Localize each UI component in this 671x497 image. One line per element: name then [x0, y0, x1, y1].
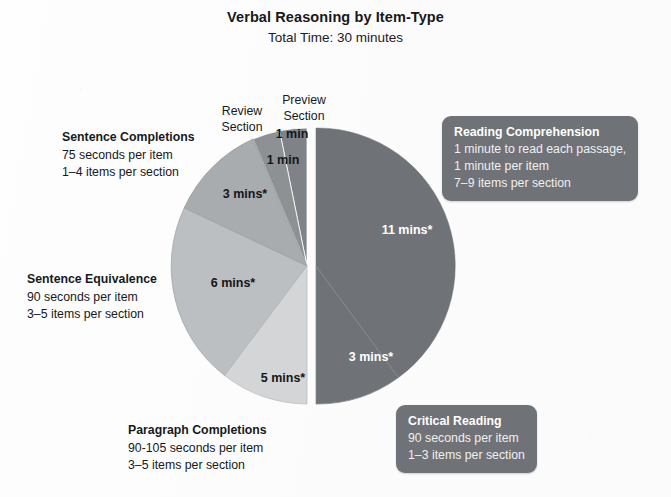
- callout-sentence-completions: Sentence Completions 75 seconds per item…: [62, 129, 195, 182]
- callout-preview-section: Preview Section: [265, 93, 343, 124]
- callout-reading-comprehension-line3: 7–9 items per section: [454, 175, 626, 192]
- pie-chart-figure: Verbal Reasoning by Item-Type Total Time…: [0, 0, 671, 497]
- slice-label-critical-reading: 3 mins*: [349, 350, 394, 364]
- callout-sentence-equivalence: Sentence Equivalence 90 seconds per item…: [27, 271, 157, 324]
- pie-chart-svg: 11 mins* 3 mins* 5 mins* 6 mins* 3 mins*…: [0, 0, 671, 497]
- callout-sentence-completions-line2: 1–4 items per section: [62, 164, 195, 182]
- callout-paragraph-completions-heading: Paragraph Completions: [128, 422, 267, 440]
- callout-sentence-equivalence-line1: 90 seconds per item: [27, 289, 157, 307]
- callout-review-section-line2: Section: [221, 120, 262, 134]
- callout-paragraph-completions-line1: 90-105 seconds per item: [128, 440, 267, 458]
- slice-label-sentence-equivalence: 6 mins*: [211, 276, 256, 290]
- slice-label-paragraph-completions: 5 mins*: [261, 371, 306, 385]
- slice-label-review-section: 1 min: [267, 153, 300, 167]
- slice-label-preview-section: 1 min: [276, 127, 309, 141]
- callout-box-reading-comprehension: Reading Comprehension 1 minute to read e…: [442, 116, 638, 201]
- callout-critical-reading-line2: 1–3 items per section: [408, 447, 525, 464]
- callout-preview-section-line2: Section: [283, 109, 324, 123]
- callout-sentence-equivalence-heading: Sentence Equivalence: [27, 271, 157, 289]
- callout-critical-reading-line1: 90 seconds per item: [408, 430, 525, 447]
- callout-review-section-line1: Review: [222, 104, 262, 118]
- callout-sentence-completions-heading: Sentence Completions: [62, 129, 195, 147]
- callout-critical-reading-heading: Critical Reading: [408, 413, 525, 430]
- slice-label-sentence-completions: 3 mins*: [223, 187, 268, 201]
- callout-box-critical-reading: Critical Reading 90 seconds per item 1–3…: [396, 405, 537, 473]
- callout-reading-comprehension-heading: Reading Comprehension: [454, 124, 626, 141]
- callout-sentence-equivalence-line2: 3–5 items per section: [27, 306, 157, 324]
- callout-sentence-completions-line1: 75 seconds per item: [62, 147, 195, 165]
- callout-reading-comprehension-line2: 1 minute per item: [454, 158, 626, 175]
- callout-reading-comprehension-line1: 1 minute to read each passage,: [454, 141, 626, 158]
- callout-paragraph-completions-line2: 3–5 items per section: [128, 457, 267, 475]
- callout-paragraph-completions: Paragraph Completions 90-105 seconds per…: [128, 422, 267, 475]
- callout-preview-section-line1: Preview: [282, 93, 326, 107]
- slice-label-reading-comprehension: 11 mins*: [382, 223, 433, 237]
